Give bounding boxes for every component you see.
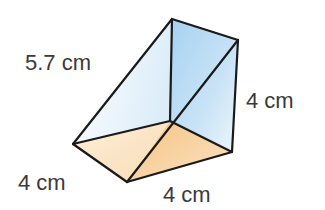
label-left-base-edge: 4 cm [18,170,66,195]
label-slant-edge: 5.7 cm [25,50,91,75]
prism-diagram: 5.7 cm 4 cm 4 cm 4 cm [0,0,325,210]
label-bottom-base-edge: 4 cm [163,182,211,207]
label-vertical-edge: 4 cm [246,88,294,113]
